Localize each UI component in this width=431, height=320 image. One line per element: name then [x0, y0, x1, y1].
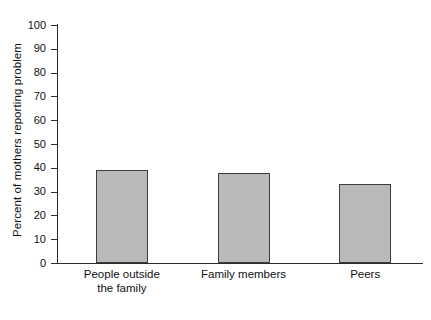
y-axis-tick-label: 50 [6, 139, 46, 150]
y-axis-tick-label: 60 [6, 115, 46, 126]
y-axis-tick-label: 100 [6, 20, 46, 31]
bar [218, 173, 270, 263]
y-axis-tick-label: 10 [6, 234, 46, 245]
x-axis-line [57, 263, 423, 264]
x-axis-category-label-line: Family members [174, 268, 314, 282]
x-axis-category-label: Peers [295, 268, 431, 282]
x-axis-category-label: People outsidethe family [52, 268, 192, 295]
y-axis-tick-label: 20 [6, 210, 46, 221]
y-axis-tick-label: 70 [6, 91, 46, 102]
bar [339, 184, 391, 263]
x-axis-category-label-line: People outside [52, 268, 192, 282]
x-axis-category-label: Family members [174, 268, 314, 282]
y-axis-tick-label: 0 [6, 258, 46, 269]
y-axis-tick-label: 80 [6, 67, 46, 78]
bar-chart-figure: Percent of mothers reporting problem 010… [0, 0, 431, 320]
y-axis-tick-label: 40 [6, 162, 46, 173]
y-axis-tick [51, 263, 57, 264]
x-axis-category-label-line: Peers [295, 268, 431, 282]
x-axis-category-label-line: the family [52, 282, 192, 296]
bar [96, 170, 148, 263]
y-axis-tick-label: 30 [6, 186, 46, 197]
plot-area [57, 25, 422, 263]
y-axis-tick-label: 90 [6, 43, 46, 54]
